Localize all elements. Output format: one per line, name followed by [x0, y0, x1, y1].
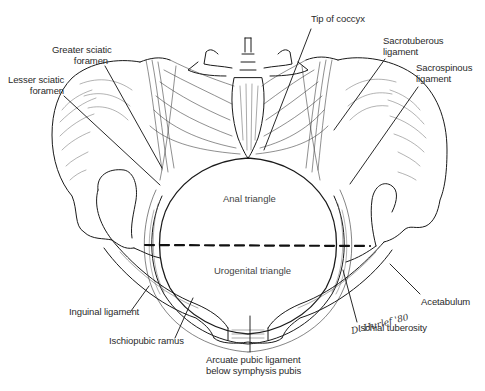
label-greater-sciatic-foramen: Greater sciatic foramen: [52, 44, 108, 66]
region-anal-triangle: Anal triangle: [223, 193, 276, 204]
label-arcuate-pubic-ligament-line2: below symphysis pubis: [206, 365, 301, 376]
label-greater-sciatic-foramen-line2: foramen: [52, 55, 108, 66]
label-sacrotuberous-ligament-line1: Sacrotuberous: [383, 35, 444, 46]
leader-lines: [64, 29, 420, 352]
label-ischial-tuberosity-text: Ischial tuberosity: [358, 322, 427, 333]
label-sacrotuberous-ligament: Sacrotuberous ligament: [383, 35, 444, 57]
label-tip-of-coccyx-text: Tip of coccyx: [311, 13, 365, 24]
label-lesser-sciatic-foramen-line2: foramen: [8, 85, 64, 96]
label-acetabulum-text: Acetabulum: [421, 296, 470, 307]
label-tip-of-coccyx: Tip of coccyx: [311, 13, 365, 24]
pelvic-outlet: [144, 158, 352, 352]
label-sacrotuberous-ligament-line2: ligament: [383, 46, 444, 57]
label-sacrospinous-ligament-line2: ligament: [416, 73, 472, 84]
right-ilium: [306, 57, 447, 262]
label-sacrospinous-ligament-line1: Sacrospinous: [416, 62, 472, 73]
label-lesser-sciatic-foramen: Lesser sciatic foramen: [8, 74, 64, 96]
region-urogenital-triangle: Urogenital triangle: [214, 265, 291, 276]
label-inguinal-ligament-text: Inguinal ligament: [69, 306, 139, 317]
label-inguinal-ligament: Inguinal ligament: [69, 306, 139, 317]
label-arcuate-pubic-ligament-line1: Arcuate pubic ligament: [206, 354, 301, 365]
label-lesser-sciatic-foramen-line1: Lesser sciatic: [8, 74, 64, 85]
label-ischiopubic-ramus-text: Ischiopubic ramus: [109, 335, 184, 346]
label-ischiopubic-ramus: Ischiopubic ramus: [109, 335, 184, 346]
label-sacrospinous-ligament: Sacrospinous ligament: [416, 62, 472, 84]
label-acetabulum: Acetabulum: [421, 296, 470, 307]
label-greater-sciatic-foramen-line1: Greater sciatic: [52, 44, 108, 55]
label-ischial-tuberosity: Ischial tuberosity: [358, 322, 427, 333]
label-arcuate-pubic-ligament: Arcuate pubic ligament below symphysis p…: [206, 354, 301, 376]
